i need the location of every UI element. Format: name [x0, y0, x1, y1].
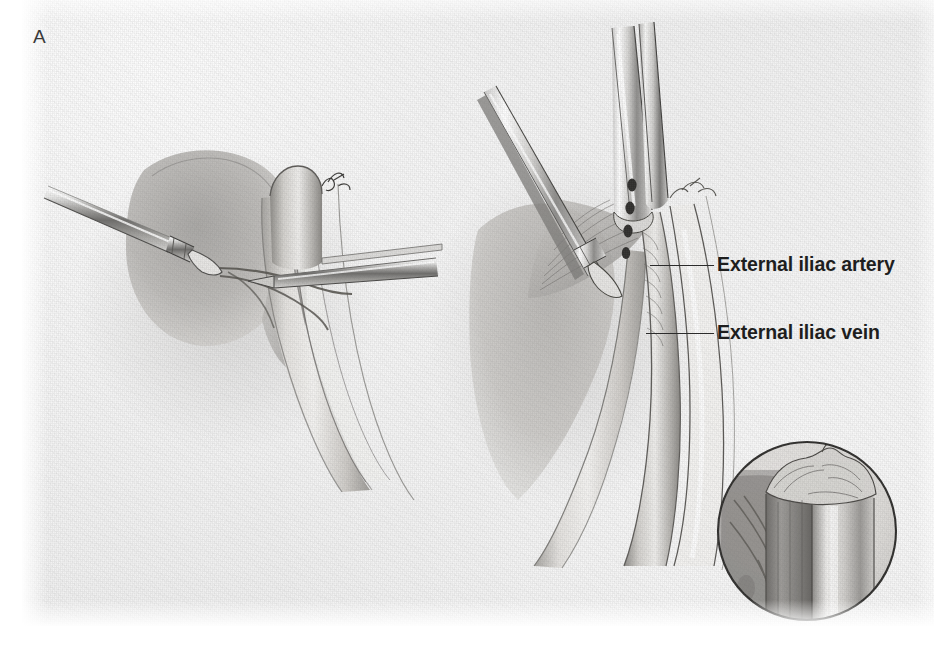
- figure-root: A External iliac artery External iliac v…: [0, 0, 934, 645]
- stump-posterior-wall: [766, 492, 816, 626]
- label-external-iliac-vein: External iliac vein: [717, 321, 880, 344]
- leader-line-artery: [650, 265, 714, 266]
- stump-anterior-wall: [812, 492, 874, 626]
- vessel-cuff: [270, 166, 322, 270]
- right-suture-wisps: [670, 178, 716, 198]
- inset-detail: [718, 438, 896, 626]
- label-external-iliac-artery: External iliac artery: [717, 253, 895, 276]
- left-illustration: [44, 150, 442, 500]
- surgical-illustration-artwork: [22, 0, 934, 626]
- panel-letter: A: [33, 26, 46, 48]
- right-illustration: [427, 22, 734, 570]
- illustration-plate: [22, 0, 934, 626]
- leader-line-vein: [646, 333, 714, 334]
